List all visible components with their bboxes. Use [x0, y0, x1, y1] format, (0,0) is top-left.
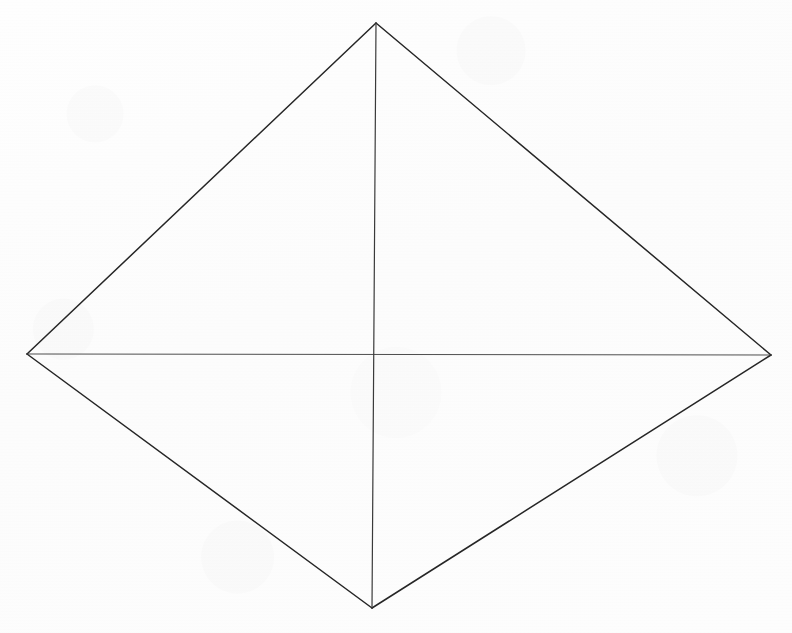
tetrahedron-line-drawing: Tetrahedron line drawing Hand-drawn line…	[0, 0, 792, 633]
edge-left-bottom	[27, 354, 372, 608]
edge-right-bottom	[372, 355, 771, 608]
figure-canvas: Tetrahedron line drawing Hand-drawn line…	[0, 0, 792, 633]
interior-edges	[27, 23, 771, 608]
edge-horizontal-diagonal	[27, 354, 771, 355]
edge-apex-left	[27, 23, 376, 354]
edge-apex-right	[376, 23, 771, 355]
edge-vertical-median	[372, 23, 376, 608]
outline-edges	[27, 23, 771, 608]
